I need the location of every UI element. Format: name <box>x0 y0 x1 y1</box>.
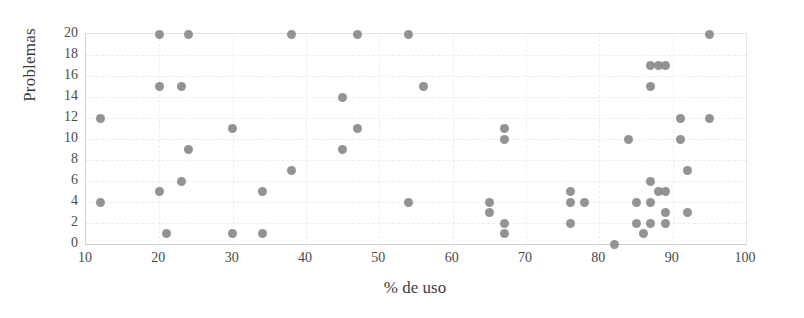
data-point <box>661 219 670 228</box>
data-point <box>96 198 105 207</box>
x-axis-title: % de uso <box>85 278 745 298</box>
y-tick-label: 6 <box>46 173 78 187</box>
y-tick-label: 4 <box>46 194 78 208</box>
data-point <box>485 198 494 207</box>
data-point <box>338 93 347 102</box>
data-point <box>500 124 509 133</box>
gridline-vertical <box>526 34 527 244</box>
data-point <box>500 219 509 228</box>
data-point <box>566 187 575 196</box>
data-point <box>258 187 267 196</box>
data-point <box>624 135 633 144</box>
gridline-horizontal <box>86 160 746 161</box>
data-point <box>96 114 105 123</box>
data-point <box>353 30 362 39</box>
data-point <box>646 177 655 186</box>
data-point <box>287 30 296 39</box>
y-tick-label: 20 <box>46 26 78 40</box>
y-axis-title: Problemas <box>10 0 50 190</box>
data-point <box>228 229 237 238</box>
y-tick-label: 12 <box>46 110 78 124</box>
y-tick-label: 0 <box>46 236 78 250</box>
gridline-vertical <box>453 34 454 244</box>
data-point <box>580 198 589 207</box>
gridline-vertical <box>159 34 160 244</box>
y-tick-label: 18 <box>46 47 78 61</box>
plot-area <box>85 33 747 245</box>
data-point <box>646 198 655 207</box>
data-point <box>155 30 164 39</box>
data-point <box>353 124 362 133</box>
y-tick-label: 14 <box>46 89 78 103</box>
data-point <box>184 30 193 39</box>
gridline-vertical <box>379 34 380 244</box>
data-point <box>639 229 648 238</box>
y-tick-label: 2 <box>46 215 78 229</box>
y-tick-label: 10 <box>46 131 78 145</box>
scatter-chart: Problemas 02468101214161820 102030405060… <box>0 0 804 318</box>
x-tick-label: 70 <box>505 250 545 266</box>
data-point <box>683 166 692 175</box>
data-point <box>485 208 494 217</box>
data-point <box>705 114 714 123</box>
data-point <box>661 187 670 196</box>
data-point <box>177 82 186 91</box>
data-point <box>419 82 428 91</box>
data-point <box>661 208 670 217</box>
data-point <box>683 208 692 217</box>
data-point <box>632 198 641 207</box>
data-point <box>566 219 575 228</box>
data-point <box>404 30 413 39</box>
data-point <box>287 166 296 175</box>
y-tick-label: 16 <box>46 68 78 82</box>
data-point <box>338 145 347 154</box>
data-point <box>162 229 171 238</box>
x-tick-label: 20 <box>138 250 178 266</box>
data-point <box>705 30 714 39</box>
data-point <box>177 177 186 186</box>
data-point <box>676 135 685 144</box>
gridline-vertical <box>599 34 600 244</box>
y-tick-label: 8 <box>46 152 78 166</box>
data-point <box>646 219 655 228</box>
data-point <box>676 114 685 123</box>
gridline-horizontal <box>86 118 746 119</box>
x-tick-label: 100 <box>725 250 765 266</box>
gridline-horizontal <box>86 76 746 77</box>
data-point <box>500 135 509 144</box>
gridline-vertical <box>306 34 307 244</box>
data-point <box>258 229 267 238</box>
data-point <box>632 219 641 228</box>
gridline-horizontal <box>86 55 746 56</box>
x-tick-label: 30 <box>212 250 252 266</box>
x-tick-label: 90 <box>652 250 692 266</box>
x-tick-label: 10 <box>65 250 105 266</box>
data-point <box>500 229 509 238</box>
data-point <box>155 82 164 91</box>
x-axis-tick-labels: 102030405060708090100 <box>0 250 804 274</box>
x-tick-label: 50 <box>358 250 398 266</box>
gridline-horizontal <box>86 97 746 98</box>
x-tick-label: 60 <box>432 250 472 266</box>
gridline-horizontal <box>86 139 746 140</box>
data-point <box>661 61 670 70</box>
gridline-vertical <box>673 34 674 244</box>
data-point <box>155 187 164 196</box>
gridline-vertical <box>233 34 234 244</box>
data-point <box>184 145 193 154</box>
data-point <box>404 198 413 207</box>
data-point <box>228 124 237 133</box>
data-point <box>610 240 619 249</box>
x-tick-label: 80 <box>578 250 618 266</box>
data-point <box>646 82 655 91</box>
x-tick-label: 40 <box>285 250 325 266</box>
data-point <box>566 198 575 207</box>
